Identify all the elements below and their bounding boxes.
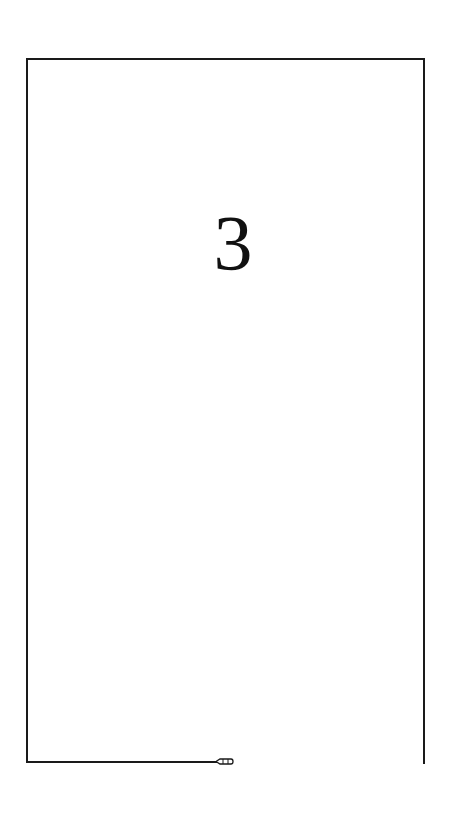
page-number: 3 [0, 188, 466, 298]
frame-bottom-border [26, 761, 218, 763]
frame-top-border [26, 58, 425, 60]
frame-left-border [26, 58, 28, 763]
frame-right-border [423, 58, 425, 764]
pencil-icon [216, 756, 234, 767]
